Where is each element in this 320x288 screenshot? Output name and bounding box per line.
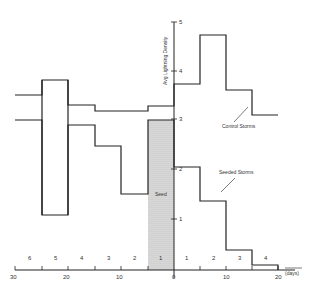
svg-text:3: 3 [107, 255, 111, 261]
svg-text:4: 4 [179, 68, 183, 74]
svg-text:4: 4 [80, 255, 84, 261]
svg-text:2: 2 [133, 255, 137, 261]
lightning-density-chart: Control Storms Seeded Storms Seed Avg Li… [0, 0, 320, 288]
seed-label: Seed [155, 191, 167, 197]
seeded-series [15, 120, 278, 270]
chart-canvas: Control Storms Seeded Storms Seed Avg Li… [0, 0, 320, 288]
control-label: Control Storms [222, 123, 256, 129]
x-axis-label: (days) [285, 270, 299, 276]
svg-text:3: 3 [179, 116, 183, 122]
x-ticks [15, 266, 278, 270]
y-axis-label: Avg Lightning Density [162, 36, 168, 85]
svg-text:0: 0 [172, 274, 176, 280]
svg-text:10: 10 [223, 274, 230, 280]
svg-text:6: 6 [28, 255, 32, 261]
control-arrow [234, 107, 248, 122]
svg-text:1: 1 [185, 255, 189, 261]
svg-text:10: 10 [116, 274, 123, 280]
svg-text:3: 3 [238, 255, 242, 261]
svg-text:5: 5 [179, 19, 183, 25]
svg-text:20: 20 [63, 274, 70, 280]
svg-text:20: 20 [275, 274, 282, 280]
seeded-arrow [221, 178, 235, 192]
x-tick-labels: 30 20 10 0 10 20 [10, 274, 282, 280]
control-series [15, 35, 278, 115]
seeded-label: Seeded Storms [219, 169, 254, 175]
svg-text:1: 1 [179, 216, 183, 222]
svg-text:4: 4 [264, 255, 268, 261]
svg-text:5: 5 [54, 255, 58, 261]
svg-text:30: 30 [10, 274, 17, 280]
svg-text:2: 2 [212, 255, 216, 261]
y-tick-labels: 1 2 3 4 5 [179, 19, 183, 222]
